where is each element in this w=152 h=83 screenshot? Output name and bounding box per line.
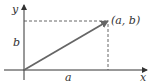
y-axis-label: y bbox=[11, 3, 19, 16]
a-label: a bbox=[65, 71, 72, 83]
point-label: (a, b) bbox=[111, 14, 140, 27]
vector-arrow bbox=[24, 21, 108, 70]
x-axis-label: x bbox=[140, 71, 147, 83]
vector-diagram: y x (a, b) b a bbox=[0, 0, 152, 83]
b-label: b bbox=[13, 36, 20, 49]
